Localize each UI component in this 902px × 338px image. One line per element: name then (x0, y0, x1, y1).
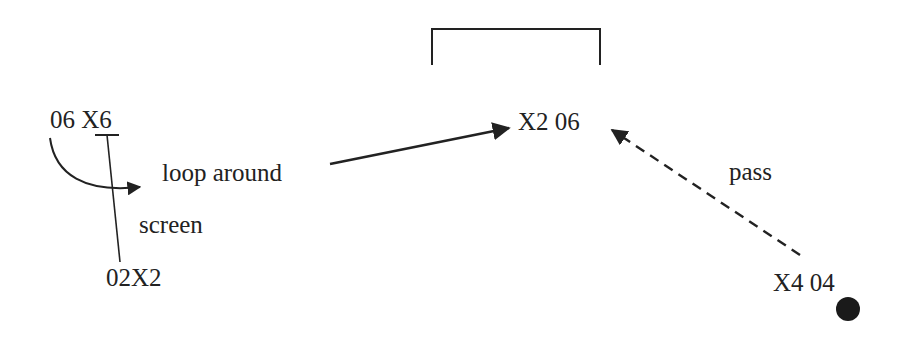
play-diagram: 06 X6 loop around screen 02X2 X2 06 pass… (0, 0, 902, 338)
hoop-bracket-icon (432, 29, 600, 65)
pass-arrow-icon (612, 130, 800, 255)
action-label-pass: pass (729, 158, 772, 185)
move-arrow-icon (330, 128, 509, 164)
player-label-x2-06: X2 06 (518, 108, 580, 135)
player-label-06-x6: 06 X6 (50, 106, 112, 133)
action-label-loop-around: loop around (162, 159, 283, 186)
action-label-screen: screen (139, 211, 203, 238)
player-label-x4-04: X4 04 (773, 269, 835, 296)
screen-icon (95, 135, 120, 262)
loop-around-arrow-icon (50, 138, 140, 188)
player-label-02x2: 02X2 (106, 264, 162, 291)
ball-icon (836, 297, 860, 321)
